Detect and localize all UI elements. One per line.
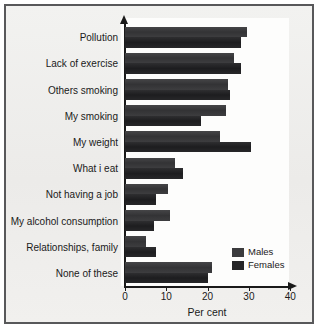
chart-legend: Males Females <box>232 246 284 272</box>
x-tick-label-40: 40 <box>285 291 296 302</box>
category-label: Lack of exercise <box>46 58 118 69</box>
legend-item-females: Females <box>232 259 284 271</box>
bar-females <box>125 90 230 101</box>
bar-females <box>125 63 241 74</box>
x-axis-line <box>124 286 289 288</box>
bar-females <box>125 221 154 232</box>
bar-males <box>125 53 234 64</box>
bar-females <box>125 168 183 179</box>
category-label: My alcohol consumption <box>11 215 118 226</box>
category-label: Others smoking <box>48 84 118 95</box>
category-label: My weight <box>73 136 118 147</box>
x-tick-label-30: 30 <box>243 291 254 302</box>
x-tick-label-0: 0 <box>122 291 128 302</box>
bar-males <box>125 262 212 273</box>
bar-males <box>125 236 146 247</box>
category-label: Relationships, family <box>26 241 118 252</box>
category-label: My smoking <box>65 110 118 121</box>
category-label: Pollution <box>80 32 118 43</box>
legend-label-males: Males <box>248 247 273 257</box>
bar-males <box>125 210 170 221</box>
bar-males <box>125 184 168 195</box>
bar-females <box>125 116 201 127</box>
bar-females <box>125 37 241 48</box>
legend-item-males: Males <box>232 246 284 258</box>
x-axis-title: Per cent <box>124 306 290 318</box>
chart-figure: 010203040 PollutionLack of exerciseOther… <box>0 0 318 330</box>
bar-males <box>125 105 226 116</box>
bar-females <box>125 194 156 205</box>
x-tick-label-20: 20 <box>202 291 213 302</box>
legend-label-females: Females <box>248 260 284 270</box>
legend-swatch-males-icon <box>232 248 244 257</box>
y-axis-arrow <box>120 15 128 24</box>
bar-males <box>125 79 228 90</box>
bar-males <box>125 131 220 142</box>
bar-females <box>125 142 251 153</box>
bar-females <box>125 247 156 258</box>
bar-females <box>125 273 208 284</box>
category-label: None of these <box>56 267 118 278</box>
x-tick-label-10: 10 <box>161 291 172 302</box>
legend-swatch-females-icon <box>232 261 244 270</box>
bar-males <box>125 158 175 169</box>
category-label: What i eat <box>73 163 118 174</box>
category-label: Not having a job <box>46 189 118 200</box>
bar-males <box>125 27 247 38</box>
